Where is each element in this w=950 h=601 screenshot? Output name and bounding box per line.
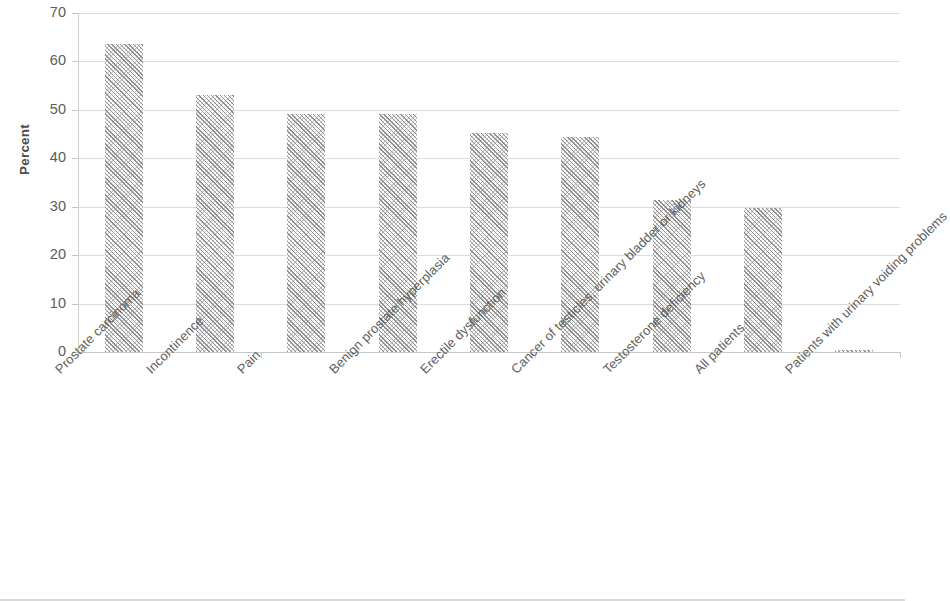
y-axis-tick-label: 10 — [26, 296, 66, 311]
gridline — [78, 61, 900, 62]
y-axis-tick-label: 40 — [26, 150, 66, 165]
y-axis-tick-label: 20 — [26, 247, 66, 262]
y-axis-tick-label: 70 — [26, 5, 66, 20]
bar — [744, 208, 782, 352]
gridline — [78, 352, 900, 353]
bar — [196, 95, 234, 352]
y-axis-tick-label: 30 — [26, 199, 66, 214]
bar — [835, 350, 873, 352]
bar — [287, 114, 325, 352]
gridline — [78, 13, 900, 14]
x-axis-tick — [900, 352, 901, 358]
y-axis-tick-label: 50 — [26, 102, 66, 117]
y-axis-tick-label: 60 — [26, 53, 66, 68]
